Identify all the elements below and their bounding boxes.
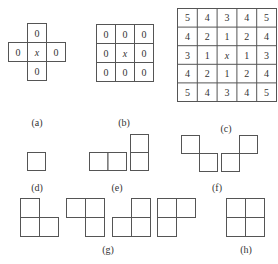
cell-a-top: 0 — [35, 28, 40, 39]
cell-a-bottom: 0 — [35, 66, 40, 77]
label-a: (a) — [31, 117, 42, 129]
cell-c-1-1: 2 — [205, 31, 210, 42]
label-d: (d) — [31, 182, 43, 194]
cell-c-1-0: 4 — [185, 31, 190, 42]
panel-h-quad-clique: (h) — [227, 199, 265, 256]
cell-c-4-1: 4 — [205, 87, 210, 98]
label-b: (b) — [118, 117, 130, 129]
neighborhood-clique-diagram: 0 0 x 0 0 (a) 0 0 0 0 x 0 0 0 0 (b) — [0, 0, 278, 264]
cell-c-3-2: 1 — [225, 68, 230, 79]
cell-c-1-3: 2 — [244, 31, 249, 42]
label-e: (e) — [111, 182, 122, 194]
cell-b-0-2: 0 — [142, 29, 147, 40]
cell-b-2-1: 0 — [123, 67, 128, 78]
cell-c-4-3: 4 — [244, 87, 249, 98]
cell-c-2-1: 1 — [205, 50, 210, 61]
cell-a-left: 0 — [16, 47, 21, 58]
cell-c-0-1: 4 — [205, 12, 210, 23]
cell-b-1-2: 0 — [142, 48, 147, 59]
cell-b-1-1: x — [122, 48, 128, 59]
cell-c-3-1: 2 — [205, 68, 210, 79]
panel-g-triple-cliques: (g) — [21, 199, 196, 256]
cell-b-0-0: 0 — [104, 29, 109, 40]
panel-e-pair-cliques: (e) — [90, 135, 149, 194]
cell-c-4-4: 5 — [264, 87, 269, 98]
cell-a-center: x — [34, 47, 40, 58]
panel-b-3x3-neighborhood: 0 0 0 0 x 0 0 0 0 (b) — [97, 25, 154, 129]
label-f: (f) — [212, 182, 222, 194]
cell-c-4-0: 5 — [185, 87, 190, 98]
cell-c-0-2: 3 — [225, 12, 230, 23]
cell-c-1-2: 1 — [225, 31, 230, 42]
cell-c-2-3: 1 — [244, 50, 249, 61]
cell-c-1-4: 4 — [264, 31, 269, 42]
cell-b-2-2: 0 — [142, 67, 147, 78]
cell-c-3-3: 2 — [244, 68, 249, 79]
panel-c-5x5-neighborhood: 5 4 3 4 5 4 2 1 2 4 3 1 x 1 3 4 2 1 2 4 … — [178, 9, 277, 135]
panel-d-single-clique: (d) — [28, 153, 46, 194]
label-c: (c) — [220, 123, 231, 135]
cell-c-3-4: 4 — [264, 68, 269, 79]
cell-a-right: 0 — [54, 47, 59, 58]
panel-f-diagonal-cliques: (f) — [182, 136, 258, 194]
cell-c-0-4: 5 — [264, 12, 269, 23]
cell-c-3-0: 4 — [185, 68, 190, 79]
cell-c-2-0: 3 — [185, 50, 190, 61]
cell-c-4-2: 3 — [225, 87, 230, 98]
cell-c-0-0: 5 — [185, 12, 190, 23]
cell-c-0-3: 4 — [244, 12, 249, 23]
cell-c-2-2: x — [224, 50, 230, 61]
panel-a-cross-neighborhood: 0 0 x 0 0 (a) — [9, 24, 66, 129]
cell-b-2-0: 0 — [104, 67, 109, 78]
cell-b-0-1: 0 — [123, 29, 128, 40]
cell-c-2-4: 3 — [264, 50, 269, 61]
label-h: (h) — [240, 244, 252, 256]
cell-b-1-0: 0 — [104, 48, 109, 59]
label-g: (g) — [102, 244, 114, 256]
